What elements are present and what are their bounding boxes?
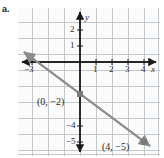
y-tick-label-neg4: −4 bbox=[66, 120, 76, 130]
item-letter: a. bbox=[2, 4, 10, 14]
y-axis-label: y bbox=[85, 12, 89, 22]
x-tick-label-3: 3 bbox=[125, 64, 130, 74]
x-tick-label-2: 2 bbox=[109, 64, 114, 74]
x-tick-label-4: 4 bbox=[141, 64, 146, 74]
point-marker-0-neg2 bbox=[77, 91, 83, 97]
x-tick-label-neg3: −3 bbox=[24, 64, 34, 74]
x-axis-label: x bbox=[151, 64, 155, 74]
y-tick-label-neg5: −5 bbox=[66, 136, 76, 146]
graph-figure: a. bbox=[0, 0, 164, 158]
x-tick-label-1: 1 bbox=[93, 64, 98, 74]
annotation-point-0-neg2: (0, −2) bbox=[37, 96, 64, 107]
coordinate-plane: −3 1 2 3 4 2 1 −4 −5 y x (0, −2) (4, −5) bbox=[18, 8, 160, 156]
axes-and-line bbox=[18, 8, 160, 156]
point-marker-4-neg5 bbox=[141, 139, 147, 145]
annotation-point-4-neg5: (4, −5) bbox=[102, 141, 129, 152]
y-tick-label-2: 2 bbox=[70, 24, 75, 34]
y-tick-label-1: 1 bbox=[70, 40, 75, 50]
